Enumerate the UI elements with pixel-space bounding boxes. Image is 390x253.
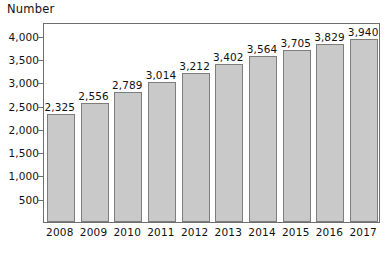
y-axis-tick-label: 500: [3, 194, 39, 206]
bar: [182, 73, 210, 222]
x-axis-tick-label: 2010: [113, 226, 141, 238]
x-axis-tick-label: 2016: [316, 226, 344, 238]
x-axis-tick-label: 2017: [349, 226, 377, 238]
y-axis-tick-mark: [38, 83, 43, 84]
bar: [249, 56, 277, 222]
y-axis-tick-label: 3,000: [3, 77, 39, 89]
bar-value-label: 3,212: [179, 60, 210, 72]
bar-value-label: 3,940: [348, 26, 379, 38]
y-axis-tick-mark: [38, 60, 43, 61]
bar-value-label: 3,564: [247, 43, 278, 55]
bar-value-label: 2,556: [78, 90, 109, 102]
x-axis-tick-label: 2011: [147, 226, 175, 238]
y-axis-tick-label: 3,500: [3, 54, 39, 66]
bar-value-label: 3,014: [146, 69, 177, 81]
x-axis-tick-label: 2008: [46, 226, 74, 238]
bar: [350, 39, 378, 222]
x-axis-tick-label: 2013: [215, 226, 243, 238]
bar: [215, 64, 243, 222]
bar-value-label: 3,705: [280, 37, 311, 49]
y-axis-tick-mark: [38, 37, 43, 38]
y-axis-tick-mark: [38, 130, 43, 131]
x-axis-tick-label: 2009: [80, 226, 108, 238]
bar-chart: Number 5001,0001,5002,0002,5003,0003,500…: [0, 0, 390, 253]
y-axis-tick-mark: [38, 153, 43, 154]
y-axis-tick-mark: [38, 176, 43, 177]
bar: [316, 44, 344, 222]
y-axis-tick-mark: [38, 200, 43, 201]
y-axis-tick-label: 2,000: [3, 124, 39, 136]
bar-value-label: 3,829: [314, 31, 345, 43]
bar-value-label: 3,402: [213, 51, 244, 63]
bar: [114, 92, 142, 222]
bar-value-label: 2,325: [45, 101, 76, 113]
x-axis-tick-label: 2012: [181, 226, 209, 238]
bar: [148, 82, 176, 222]
bar: [283, 50, 311, 222]
y-axis-tick-label: 1,000: [3, 170, 39, 182]
y-axis-tick-label: 1,500: [3, 147, 39, 159]
y-axis-tick-label: 4,000: [3, 31, 39, 43]
y-axis-tick-mark: [38, 107, 43, 108]
bars-layer: [44, 24, 379, 222]
x-axis-tick-label: 2015: [282, 226, 310, 238]
plot-area: [43, 23, 380, 223]
bar-value-label: 2,789: [112, 79, 143, 91]
bar: [47, 114, 75, 222]
y-axis-tick-label: 2,500: [3, 101, 39, 113]
x-axis-tick-label: 2014: [248, 226, 276, 238]
bar: [81, 103, 109, 222]
chart-title: Number: [7, 2, 54, 16]
